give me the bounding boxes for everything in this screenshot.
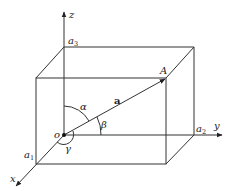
vector-a-label: a <box>114 95 121 106</box>
a2-label: a2 <box>196 123 206 136</box>
box-back-face <box>64 47 194 135</box>
z-axis-label: z <box>68 9 75 20</box>
a3-label: a3 <box>68 35 78 48</box>
a1-label: a1 <box>24 149 34 162</box>
origin-label: o <box>54 129 60 140</box>
point-a-label: A <box>159 65 167 76</box>
beta-label: β <box>100 119 107 130</box>
alpha-label: α <box>80 101 87 112</box>
x-axis <box>16 135 64 186</box>
origin-point <box>62 133 66 137</box>
gamma-label: γ <box>65 143 71 154</box>
x-axis-label: x <box>10 173 16 184</box>
vector-box-diagram: z y x a3 a2 a1 o A a α β γ <box>0 0 229 191</box>
y-axis-label: y <box>213 120 220 131</box>
